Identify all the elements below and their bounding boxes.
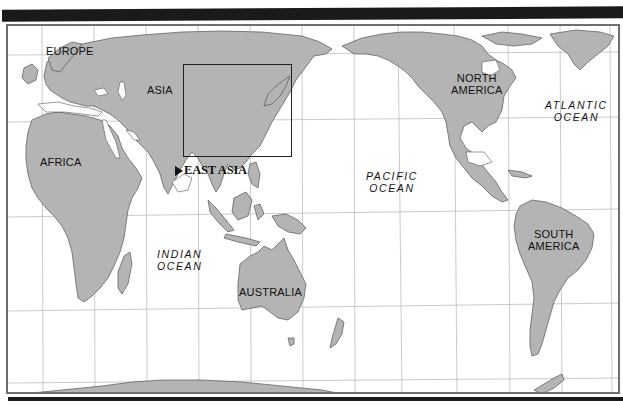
antarctic-peninsula-shape	[534, 374, 564, 394]
cuba-shape	[508, 170, 532, 178]
label-atlantic-line-2: OCEAN	[545, 111, 608, 123]
label-north-america: NORTH AMERICA	[451, 72, 503, 96]
label-asia: ASIA	[147, 84, 173, 96]
label-south-america-line-2: AMERICA	[528, 240, 580, 252]
label-europe: EUROPE	[46, 45, 94, 57]
east-asia-label: EAST ASIA	[184, 163, 247, 178]
label-pacific-ocean: PACIFIC OCEAN	[366, 170, 418, 194]
label-north-america-line-2: AMERICA	[451, 84, 503, 96]
java-shape	[224, 234, 260, 246]
top-black-bar	[2, 6, 623, 21]
bottom-black-bar	[8, 397, 623, 401]
label-atlantic-line-1: ATLANTIC	[545, 99, 608, 111]
label-south-america-line-1: SOUTH	[528, 228, 580, 240]
label-indian-line-1: INDIAN	[157, 248, 202, 260]
label-indian-line-2: OCEAN	[157, 260, 202, 272]
australia-shape	[238, 238, 306, 320]
label-north-america-line-1: NORTH	[451, 72, 503, 84]
madagascar-shape	[118, 252, 132, 294]
greenland-shape	[550, 30, 614, 70]
british-isles-shape	[22, 64, 38, 84]
arctic-islands-shape	[482, 32, 542, 46]
borneo-shape	[232, 192, 252, 220]
world-map	[8, 26, 620, 394]
tasmania-shape	[288, 338, 294, 346]
east-asia-highlight-box	[183, 64, 292, 157]
label-pacific-line-2: OCEAN	[366, 182, 418, 194]
label-africa: AFRICA	[40, 156, 82, 168]
south-america-shape	[514, 200, 594, 356]
philippines-shape	[248, 162, 260, 188]
new-guinea-shape	[272, 214, 306, 234]
map-frame	[6, 24, 620, 394]
label-pacific-line-1: PACIFIC	[366, 170, 418, 182]
label-atlantic-ocean: ATLANTIC OCEAN	[545, 99, 608, 123]
sulawesi-shape	[254, 204, 264, 220]
sumatra-shape	[208, 200, 234, 232]
triangle-pointer-icon	[175, 166, 183, 176]
label-australia: AUSTRALIA	[239, 286, 302, 298]
label-south-america: SOUTH AMERICA	[528, 228, 580, 252]
new-zealand-shape	[330, 318, 344, 348]
label-indian-ocean: INDIAN OCEAN	[157, 248, 202, 272]
